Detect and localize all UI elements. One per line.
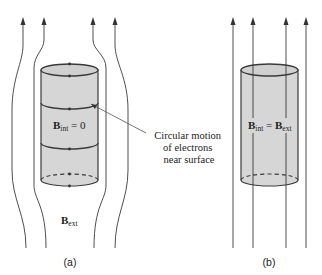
panel-b: Bint = Bext (b): [231, 17, 309, 268]
arrow-up-icon: [304, 17, 309, 25]
b-ext-label: Bext: [61, 214, 78, 228]
field-line-a-outer-right: [115, 20, 128, 248]
arrow-up-icon: [42, 17, 47, 25]
panel-a: Bint = 0 Bext Circular motion of electro…: [12, 17, 224, 268]
arrow-up-icon: [231, 17, 236, 25]
diagram-stage: Bint = 0 Bext Circular motion of electro…: [0, 0, 322, 275]
caption-b: (b): [263, 256, 276, 268]
caption-a: (a): [64, 256, 77, 268]
arrow-up-icon: [91, 17, 96, 25]
b-int-zero-label: Bint = 0: [53, 119, 86, 133]
arrow-up-icon: [251, 17, 256, 25]
annotation-pointer: [91, 104, 146, 133]
field-line-a-outer-left: [12, 20, 26, 248]
arrow-up-icon: [21, 17, 26, 25]
electron-motion-annotation: Circular motion of electrons near surfac…: [154, 130, 223, 165]
arrow-up-icon: [113, 17, 118, 25]
arrow-up-icon: [284, 17, 289, 25]
